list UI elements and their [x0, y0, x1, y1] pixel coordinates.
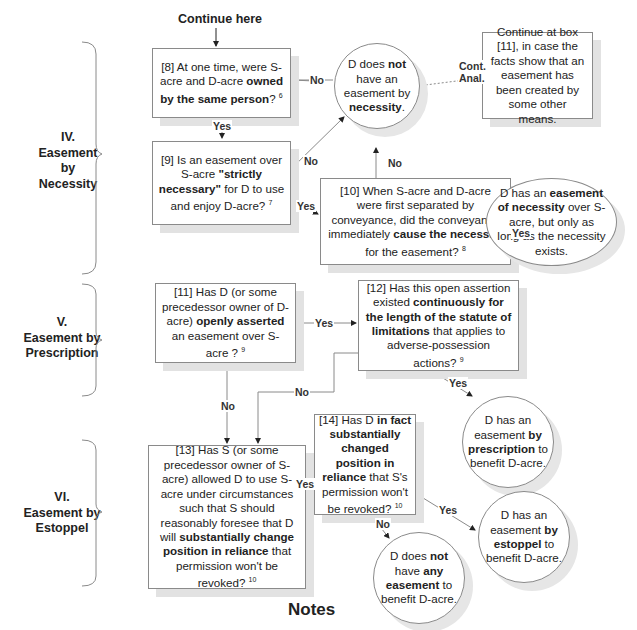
anal-label: Anal. [459, 72, 486, 84]
box-11-openly-asserted: [11] Has D (or some precedessor owner of… [155, 283, 296, 363]
footnote-ref: 9 [241, 346, 245, 353]
edge-label-b13-yes: Yes [295, 478, 315, 490]
edge-label-cont-anal: Cont. Anal. [458, 60, 487, 84]
node-text: D has an easement [490, 508, 547, 535]
node-text: an easement over S-acre ? [172, 329, 280, 359]
edge-label-b8-no: No [309, 74, 325, 86]
node-text: for the easement? [365, 245, 462, 258]
node-text: Continue at box [11], in case the facts … [488, 25, 587, 126]
continue-at-box-11: Continue at box [11], in case the facts … [482, 32, 593, 119]
edge-label-b14-no: No [375, 518, 391, 530]
box-9-strictly-necessary: [9] Is an easement over S-acre "strictly… [152, 141, 291, 225]
result-easement-by-prescription: D has an easement by prescription to ben… [462, 396, 554, 488]
footnote-ref: 7 [269, 199, 273, 206]
result-easement-by-estoppel: D has an easement by estoppel to benefit… [478, 491, 570, 583]
edge-label-b12-yes: Yes [448, 377, 468, 389]
node-text: . [402, 100, 405, 113]
edge-label-b12-no: No [294, 386, 310, 398]
box-14-changed-position: [14] Has D in fact substantially changed… [314, 414, 416, 515]
brace-estoppel-icon [80, 438, 110, 590]
footnote-ref: 10 [249, 576, 257, 583]
edge-label-b10-no: No [387, 157, 403, 169]
node-text: D does [390, 549, 430, 562]
edge-label-b9-no: No [303, 155, 319, 167]
edge-label-b9-yes: Yes [296, 200, 316, 212]
node-text: D has an easement [474, 413, 531, 440]
footnote-ref: 10 [395, 502, 403, 509]
result-easement-of-necessity: D has an easement of necessity over S-ac… [486, 178, 617, 266]
node-text: have [395, 564, 423, 577]
node-text: [14] Has D [319, 413, 377, 426]
node-bold-text: necessity [349, 100, 402, 113]
edge-label-b11-no: No [220, 400, 236, 412]
cont-label: Cont. [459, 60, 486, 72]
box-8-same-owner: [8] At one time, were S-acre and D-acre … [152, 48, 291, 118]
footnote-ref: 6 [279, 92, 283, 99]
result-no-easement-by-necessity: D does not have an easement by necessity… [334, 43, 420, 129]
footnote-ref: 8 [462, 245, 466, 252]
result-no-easement: D does not have any easement to benefit … [373, 532, 465, 624]
box-13-allowed-use: [13] Has S (or some precedessor owner of… [148, 445, 306, 589]
edge-label-b8-yes: Yes [212, 120, 232, 132]
node-bold-text: not [388, 57, 406, 70]
continue-here-label: Continue here [178, 12, 262, 26]
node-text: D has an [500, 186, 550, 199]
node-text: D does [348, 57, 388, 70]
brace-necessity-icon [80, 40, 110, 280]
notes-heading: Notes [288, 600, 335, 620]
edge-label-b14-yes: Yes [438, 504, 458, 516]
node-bold-text: not [430, 549, 448, 562]
box-12-continuous-assertion: [12] Has this open assertion existed con… [358, 280, 519, 371]
box-10-cause-necessity: [10] When S-acre and D-acre were first s… [320, 178, 511, 265]
node-text: have an easement by [344, 72, 410, 99]
node-bold-text: openly asserted [196, 314, 284, 327]
edge-label-b11-yes: Yes [314, 317, 334, 329]
node-text: [13] Has S (or some precedessor owner of… [160, 443, 293, 542]
edge-label-b10-yes: Yes [511, 227, 531, 239]
brace-prescription-icon [80, 282, 110, 402]
node-text: ? [269, 92, 279, 105]
footnote-ref: 9 [460, 356, 464, 363]
